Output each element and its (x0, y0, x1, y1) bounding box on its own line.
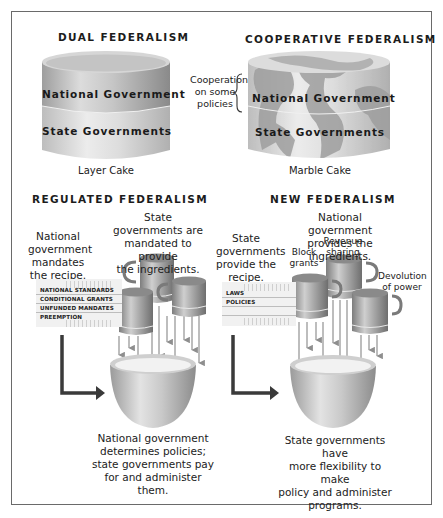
layer-cake-caption: Layer Cake (42, 164, 170, 177)
new-recipe-label: State governments provide the recipe. (216, 232, 276, 284)
cup-label-block-grants: Block grants (289, 247, 319, 269)
marble-cake-icon (248, 51, 390, 160)
new-recipe-card: LAWS POLICIES (222, 282, 296, 326)
recipe-item: UNFUNDED MANDATES (36, 304, 122, 313)
marble-cake-national-label: National Government (252, 92, 388, 104)
marble-cake-caption: Marble Cake (252, 164, 388, 177)
new-federalism-title: NEW FEDERALISM (270, 193, 396, 205)
dual-federalism-title: DUAL FEDERALISM (58, 31, 189, 43)
marble-cake-state-label: State Governments (252, 126, 388, 138)
regulated-result-text: National government determines policies;… (88, 432, 218, 497)
recipe-item: LAWS (222, 289, 296, 298)
recipe-item: CONDITIONAL GRANTS (36, 295, 122, 304)
cooperative-federalism-title: COOPERATIVE FEDERALISM (245, 33, 437, 45)
recipe-item: NATIONAL STANDARDS (36, 286, 122, 295)
cooperation-annotation: Cooperation on some policies (190, 74, 240, 110)
regulated-federalism-title: REGULATED FEDERALISM (32, 193, 208, 205)
cup-label-revenue-sharing: Revenue sharing (321, 236, 365, 258)
recipe-blank-line (222, 307, 296, 316)
bowl-icon (110, 354, 196, 428)
regulated-recipe-label: National government mandates the recipe. (28, 230, 88, 282)
recipe-item: POLICIES (222, 298, 296, 307)
cup-label-devolution: Devolution of power (378, 271, 426, 293)
layer-cake-icon (42, 51, 170, 159)
new-result-text: State governments have more flexibility … (275, 434, 395, 512)
layer-cake-state-label: State Governments (42, 125, 170, 137)
bowl-icon (290, 355, 376, 428)
regulated-ingredients-label: State governments are mandated to provid… (108, 211, 208, 276)
layer-cake-national-label: National Government (42, 88, 170, 100)
cup-icon (352, 289, 401, 335)
regulated-recipe-card: NATIONAL STANDARDS CONDITIONAL GRANTS UN… (36, 279, 122, 327)
